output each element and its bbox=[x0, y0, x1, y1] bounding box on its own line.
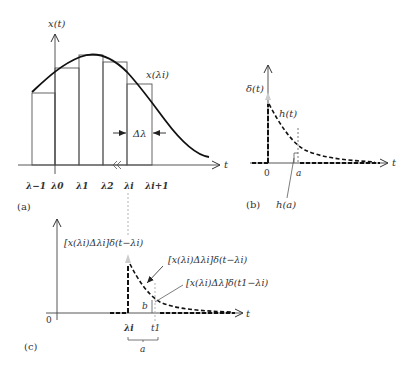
svg-text:λ1: λ1 bbox=[75, 181, 89, 191]
b-label: b bbox=[142, 301, 148, 311]
c-value-label: [x(λi)Δλ]δ(t1−λi) bbox=[186, 277, 268, 288]
riemann-rectangles bbox=[32, 55, 152, 165]
c-t1-label: t1 bbox=[151, 323, 160, 333]
h-a-label: h(a) bbox=[276, 199, 296, 210]
signal-curve bbox=[32, 54, 209, 157]
panel-a: Δλ x(t) t x(λi) λ−1 λ0 λ1 λ2 λi λi+1 (a) bbox=[17, 18, 229, 212]
svg-text:λ0: λ0 bbox=[50, 181, 64, 191]
panel-a-caption: (a) bbox=[17, 201, 31, 212]
c-origin-label: 0 bbox=[46, 315, 52, 325]
h-t-label: h(t) bbox=[279, 108, 297, 119]
panel-b-caption: (b) bbox=[246, 199, 260, 210]
y-axis-label: x(t) bbox=[48, 18, 66, 29]
span-bracket bbox=[128, 337, 158, 342]
svg-text:λ2: λ2 bbox=[100, 181, 114, 191]
delta-label: δ(t) bbox=[246, 83, 264, 94]
c-response-label: [x(λi)Δλi]δ(t−λi) bbox=[168, 254, 247, 265]
convolution-figure: Δλ x(t) t x(λi) λ−1 λ0 λ1 λ2 λi λi+1 (a) bbox=[0, 0, 411, 372]
svg-text:λ−1: λ−1 bbox=[25, 181, 46, 191]
delta-lambda-label: Δλ bbox=[132, 128, 147, 139]
curve-label: x(λi) bbox=[146, 69, 169, 80]
panel-c-caption: (c) bbox=[24, 341, 38, 352]
c-response-leader bbox=[147, 266, 163, 283]
b-origin-label: 0 bbox=[264, 168, 270, 178]
b-x-axis-label: t bbox=[392, 157, 397, 168]
svg-text:λi: λi bbox=[123, 181, 134, 191]
panel-b: δ(t) h(t) t 0 a h(a) (b) bbox=[246, 65, 397, 210]
b-a-label: a bbox=[296, 168, 301, 178]
c-lambda-label: λi bbox=[123, 323, 134, 333]
panel-c: [x(λi)Δλi]δ(t−λi) [x(λi)Δλi]δ(t−λi) [x(λ… bbox=[24, 219, 268, 354]
c-span-label: a bbox=[140, 344, 145, 354]
c-value-leader bbox=[155, 285, 183, 302]
svg-text:λi+1: λi+1 bbox=[144, 181, 169, 191]
x-axis-label: t bbox=[224, 159, 229, 170]
c-impulse-label: [x(λi)Δλi]δ(t−λi) bbox=[64, 237, 143, 248]
h-a-leader bbox=[287, 158, 294, 198]
c-x-axis-label: t bbox=[246, 308, 251, 319]
tick-labels: λ−1 λ0 λ1 λ2 λi λi+1 bbox=[25, 181, 169, 191]
